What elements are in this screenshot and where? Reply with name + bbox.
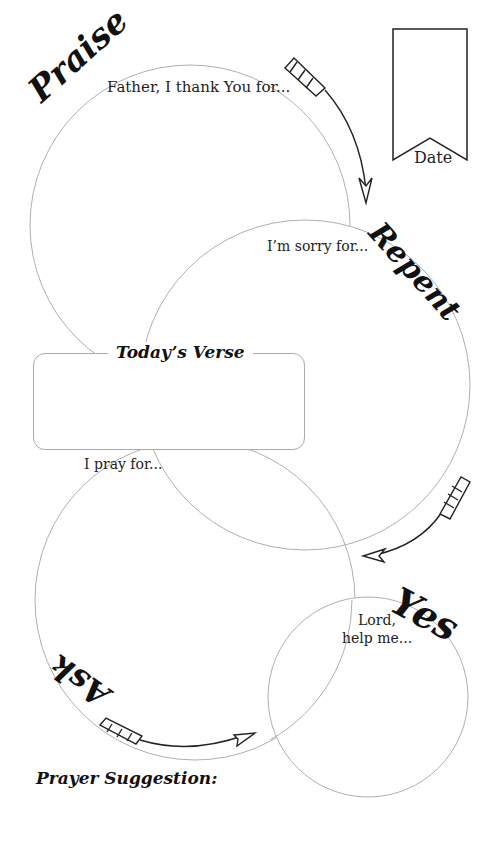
date-bookmark-icon — [393, 29, 467, 160]
arrow-ask-to-yes-icon — [100, 718, 255, 746]
date-label: Date — [414, 148, 452, 167]
repent-prompt: I’m sorry for... — [267, 238, 368, 254]
arrow-praise-to-repent-icon — [285, 58, 372, 203]
yes-prompt-line2: help me... — [342, 630, 412, 646]
praise-prompt: Father, I thank You for... — [107, 78, 290, 96]
prayer-suggestion-label: Prayer Suggestion: — [36, 768, 217, 788]
todays-verse-box[interactable] — [33, 353, 305, 450]
todays-verse-title: Today’s Verse — [108, 342, 253, 362]
ask-prompt: I pray for... — [84, 456, 162, 472]
